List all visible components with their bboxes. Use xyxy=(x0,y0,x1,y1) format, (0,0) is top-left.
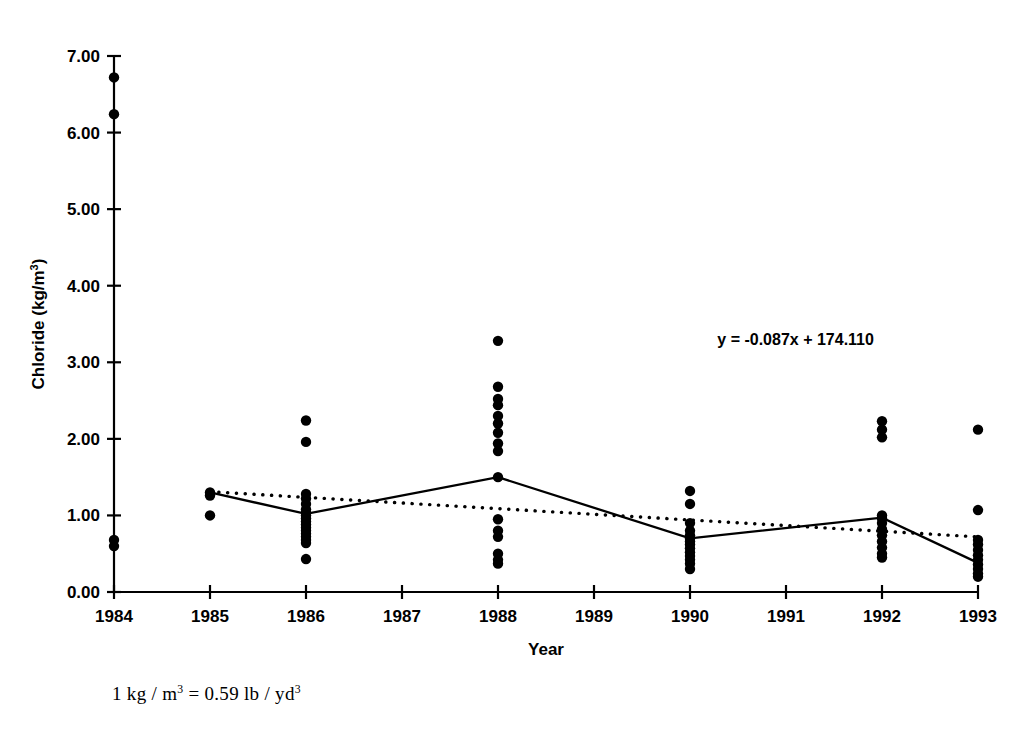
data-point xyxy=(301,437,311,447)
x-axis-tick-label: 1988 xyxy=(479,607,517,626)
data-point xyxy=(205,510,215,520)
chart-annotations: y = -0.087x + 174.110 xyxy=(717,331,874,348)
data-point xyxy=(301,415,311,425)
data-point xyxy=(493,336,503,346)
y-axis-title-base: Chloride (kg/m xyxy=(29,270,48,389)
data-point xyxy=(493,400,503,410)
data-point xyxy=(301,554,311,564)
y-axis-tick-label: 2.00 xyxy=(67,430,100,449)
data-point xyxy=(493,532,503,542)
data-point xyxy=(877,432,887,442)
x-axis-tick-label: 1985 xyxy=(191,607,229,626)
y-axis-tick-label: 1.00 xyxy=(67,506,100,525)
annual-mean-line xyxy=(210,477,978,563)
data-point xyxy=(493,382,503,392)
data-point xyxy=(973,424,983,434)
y-axis-tick-label: 0.00 xyxy=(67,583,100,602)
y-axis-tick-label: 6.00 xyxy=(67,124,100,143)
y-axis-tick-label: 4.00 xyxy=(67,277,100,296)
regression-equation: y = -0.087x + 174.110 xyxy=(717,331,874,348)
chart-canvas: 0.001.002.003.004.005.006.007.00 1984198… xyxy=(0,0,1034,750)
data-point xyxy=(493,446,503,456)
annual-mean-line xyxy=(210,477,978,563)
x-axis-tick-label: 1987 xyxy=(383,607,421,626)
footnote-superscript-2: 3 xyxy=(295,683,301,696)
data-point xyxy=(493,428,503,438)
y-axis-title-close: ) xyxy=(29,259,48,265)
x-axis-tick-label: 1993 xyxy=(959,607,997,626)
x-axis: 1984198519861987198819891990199119921993 xyxy=(95,585,997,626)
axis-titles: YearChloride (kg/m3) xyxy=(28,259,564,659)
x-axis-tick-label: 1990 xyxy=(671,607,709,626)
data-point xyxy=(493,514,503,524)
x-axis-tick-label: 1984 xyxy=(95,607,133,626)
x-axis-tick-label: 1991 xyxy=(767,607,805,626)
linear-trend-line xyxy=(210,492,978,537)
data-point xyxy=(685,499,695,509)
footnote-part-a: 1 kg / m xyxy=(112,683,177,704)
data-point xyxy=(493,472,503,482)
data-point xyxy=(973,571,983,581)
data-point xyxy=(109,72,119,82)
y-axis-tick-label: 3.00 xyxy=(67,353,100,372)
x-axis-title: Year xyxy=(528,640,564,659)
footnote-part-b: = 0.59 lb / yd xyxy=(183,683,294,704)
data-point xyxy=(493,558,503,568)
x-axis-tick-label: 1986 xyxy=(287,607,325,626)
x-axis-tick-label: 1989 xyxy=(575,607,613,626)
data-point xyxy=(109,541,119,551)
data-point xyxy=(973,505,983,515)
data-point xyxy=(205,490,215,500)
data-point xyxy=(685,486,695,496)
x-axis-tick-label: 1992 xyxy=(863,607,901,626)
y-axis: 0.001.002.003.004.005.006.007.00 xyxy=(67,47,121,602)
data-point xyxy=(493,418,503,428)
y-axis-title: Chloride (kg/m3) xyxy=(28,259,48,390)
scatter-points xyxy=(109,72,983,582)
data-point xyxy=(301,538,311,548)
y-axis-tick-label: 7.00 xyxy=(67,47,100,66)
chart-figure: 0.001.002.003.004.005.006.007.00 1984198… xyxy=(0,0,1034,750)
data-point xyxy=(109,109,119,119)
linear-trend-line xyxy=(210,492,978,537)
data-point xyxy=(877,552,887,562)
data-point xyxy=(685,564,695,574)
y-axis-tick-label: 5.00 xyxy=(67,200,100,219)
unit-conversion-footnote: 1 kg / m3 = 0.59 lb / yd3 xyxy=(112,683,301,705)
